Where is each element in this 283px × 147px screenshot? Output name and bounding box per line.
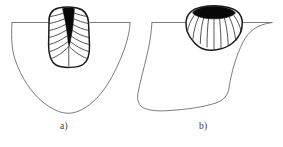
panel-b-fusion-zone [193,7,236,19]
weld-cross-section-figure [0,0,283,147]
figure-panel: a) b) [0,0,283,147]
